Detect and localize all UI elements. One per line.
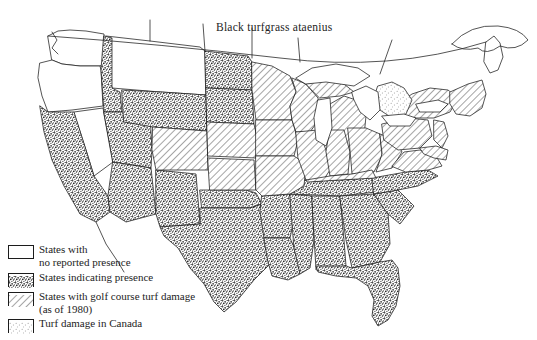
figure-root: Black turfgrass ataenius bbox=[0, 0, 537, 340]
legend-label-line2: no reported presence bbox=[39, 256, 131, 269]
region-colorado bbox=[152, 127, 208, 170]
region-nebraska bbox=[207, 122, 258, 158]
region-alabama bbox=[312, 196, 346, 270]
region-northcarolina bbox=[372, 170, 438, 194]
region-arizona bbox=[108, 162, 156, 222]
region-northdakota bbox=[205, 51, 252, 90]
region-washington bbox=[48, 30, 104, 66]
region-maine bbox=[484, 36, 503, 73]
legend-item-no-reported-presence: States with no reported presence bbox=[8, 243, 218, 268]
legend-label-line1: Turf damage in Canada bbox=[39, 317, 142, 329]
region-kansas bbox=[208, 158, 256, 190]
legend-label-golf-course-turf-damage: States with golf course turf damage (as … bbox=[39, 290, 195, 315]
legend-item-golf-course-turf-damage: States with golf course turf damage (as … bbox=[8, 290, 218, 315]
legend-item-indicating-presence: States indicating presence bbox=[8, 271, 218, 287]
legend-label-no-reported-presence: States with no reported presence bbox=[39, 243, 131, 268]
legend-swatch-light-stipple bbox=[8, 319, 34, 333]
legend-swatch-dense-stipple bbox=[8, 273, 34, 287]
map-legend: States with no reported presence States … bbox=[8, 243, 218, 334]
region-newmexico bbox=[156, 170, 200, 227]
region-iowa bbox=[256, 120, 298, 156]
canada-interior-line-5 bbox=[380, 40, 392, 74]
region-oklahoma bbox=[200, 190, 262, 208]
region-ontario-canada bbox=[374, 82, 412, 118]
region-minnesota bbox=[252, 62, 296, 120]
region-arkansas bbox=[260, 194, 294, 238]
legend-label-indicating-presence: States indicating presence bbox=[39, 271, 153, 284]
region-southdakota bbox=[206, 88, 254, 124]
legend-label-line2: (as of 1980) bbox=[39, 303, 195, 316]
lake-superior bbox=[296, 64, 370, 86]
legend-label-line1: States indicating presence bbox=[39, 271, 153, 283]
diagonal-hatch-icon bbox=[9, 295, 33, 307]
region-florida bbox=[316, 260, 400, 326]
region-group-canada bbox=[374, 82, 412, 118]
legend-label-turf-damage-canada: Turf damage in Canada bbox=[39, 317, 142, 330]
canada-interior-line-4 bbox=[298, 38, 300, 62]
legend-swatch-diagonal-hatch bbox=[8, 292, 34, 306]
region-oregon bbox=[38, 60, 103, 112]
legend-label-line1: States with bbox=[39, 243, 88, 255]
dense-stipple-icon bbox=[9, 276, 33, 288]
region-ohio bbox=[348, 128, 382, 174]
legend-label-line1: States with golf course turf damage bbox=[39, 290, 195, 302]
light-stipple-icon bbox=[9, 322, 33, 334]
legend-swatch-blank bbox=[8, 245, 34, 259]
legend-item-turf-damage-canada: Turf damage in Canada bbox=[8, 317, 218, 333]
region-new-england bbox=[450, 80, 486, 116]
region-newjersey bbox=[434, 120, 448, 148]
canada-interior-line-2 bbox=[203, 24, 205, 51]
